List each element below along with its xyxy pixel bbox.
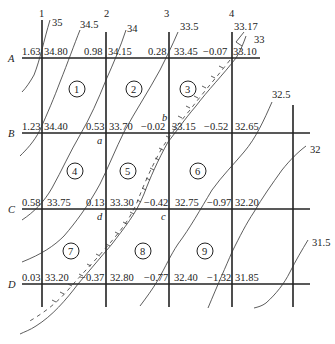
- contour-label-32.5: 32.5: [272, 89, 290, 100]
- cell-number-3: 3: [185, 84, 190, 95]
- column-label-2: 2: [104, 8, 109, 19]
- node-c1-elevation: 33.75: [47, 197, 71, 208]
- node-b3-elevation: 33.15: [172, 121, 196, 132]
- node-c4-cut-fill: −0.97: [207, 197, 231, 208]
- cell-number-6: 6: [195, 166, 200, 177]
- node-a4-cut-fill: −0.07: [203, 46, 227, 57]
- cell-number-5: 5: [125, 166, 130, 177]
- point-b: b: [162, 112, 167, 123]
- node-d3-cut-fill: −0.77: [144, 272, 168, 283]
- contour-31.5: [254, 240, 308, 308]
- node-c2-elevation: 33.30: [110, 197, 134, 208]
- node-d3-elevation: 32.40: [174, 272, 198, 283]
- column-label-1: 1: [39, 8, 44, 19]
- contour-label-34.5: 34.5: [80, 19, 98, 30]
- node-d1-cut-fill: 0.03: [22, 272, 40, 283]
- contour-label-32: 32: [310, 144, 321, 155]
- earthwork-grid-diagram: 1 2 3 4 A B C D 1.63 34.80 0.98 34.15 0.…: [0, 0, 335, 344]
- cell-number-7: 7: [68, 246, 73, 257]
- cell-number-4: 4: [72, 166, 78, 177]
- node-d1-elevation: 33.20: [45, 272, 69, 283]
- node-b1-cut-fill: 1.23: [22, 121, 40, 132]
- cell-number-8: 8: [140, 246, 145, 257]
- node-b1-elevation: 34.40: [44, 121, 68, 132]
- row-label-c: C: [8, 204, 16, 215]
- node-c3-elevation: 32.75: [175, 197, 199, 208]
- node-a1-elevation: 34.80: [44, 46, 68, 57]
- node-b4-elevation: 32.65: [235, 121, 259, 132]
- node-b2-cut-fill: 0.53: [86, 121, 104, 132]
- zero-line-solid: [20, 58, 236, 334]
- node-c3-cut-fill: −0.42: [144, 197, 168, 208]
- node-a4-elevation: 33.10: [233, 46, 257, 57]
- row-label-d: D: [7, 279, 16, 290]
- contour-lines: 35 34.5 34 33.5 33 32.5 32 31.5: [20, 17, 330, 308]
- contour-label-31.5: 31.5: [312, 237, 330, 248]
- node-a2-cut-fill: 0.98: [84, 46, 102, 57]
- contour-label-34: 34: [127, 23, 138, 34]
- node-c1-cut-fill: 0.58: [22, 197, 40, 208]
- zero-line-label: 33.17: [234, 21, 258, 32]
- node-c4-elevation: 32.20: [235, 197, 259, 208]
- ravine-hatches: [52, 66, 223, 302]
- column-label-4: 4: [229, 8, 235, 19]
- point-a: a: [97, 135, 102, 146]
- row-label-b: B: [8, 128, 15, 139]
- node-b4-cut-fill: −0.52: [204, 121, 228, 132]
- node-a3-elevation: 33.45: [174, 46, 198, 57]
- point-c: c: [161, 211, 166, 222]
- node-a1-cut-fill: 1.63: [22, 46, 40, 57]
- node-d2-elevation: 32.80: [110, 272, 134, 283]
- contour-label-35: 35: [52, 17, 63, 28]
- contour-label-33.5: 33.5: [180, 21, 198, 32]
- cell-number-9: 9: [202, 246, 207, 257]
- contour-33.5: [22, 32, 178, 262]
- contour-label-33: 33: [254, 34, 265, 45]
- node-d4-elevation: 31.85: [235, 272, 259, 283]
- cell-number-2: 2: [131, 84, 136, 95]
- point-d: d: [97, 211, 103, 222]
- column-label-3: 3: [164, 8, 169, 19]
- row-label-a: A: [7, 53, 15, 64]
- node-a3-cut-fill: 0.28: [148, 46, 166, 57]
- cell-number-1: 1: [74, 84, 79, 95]
